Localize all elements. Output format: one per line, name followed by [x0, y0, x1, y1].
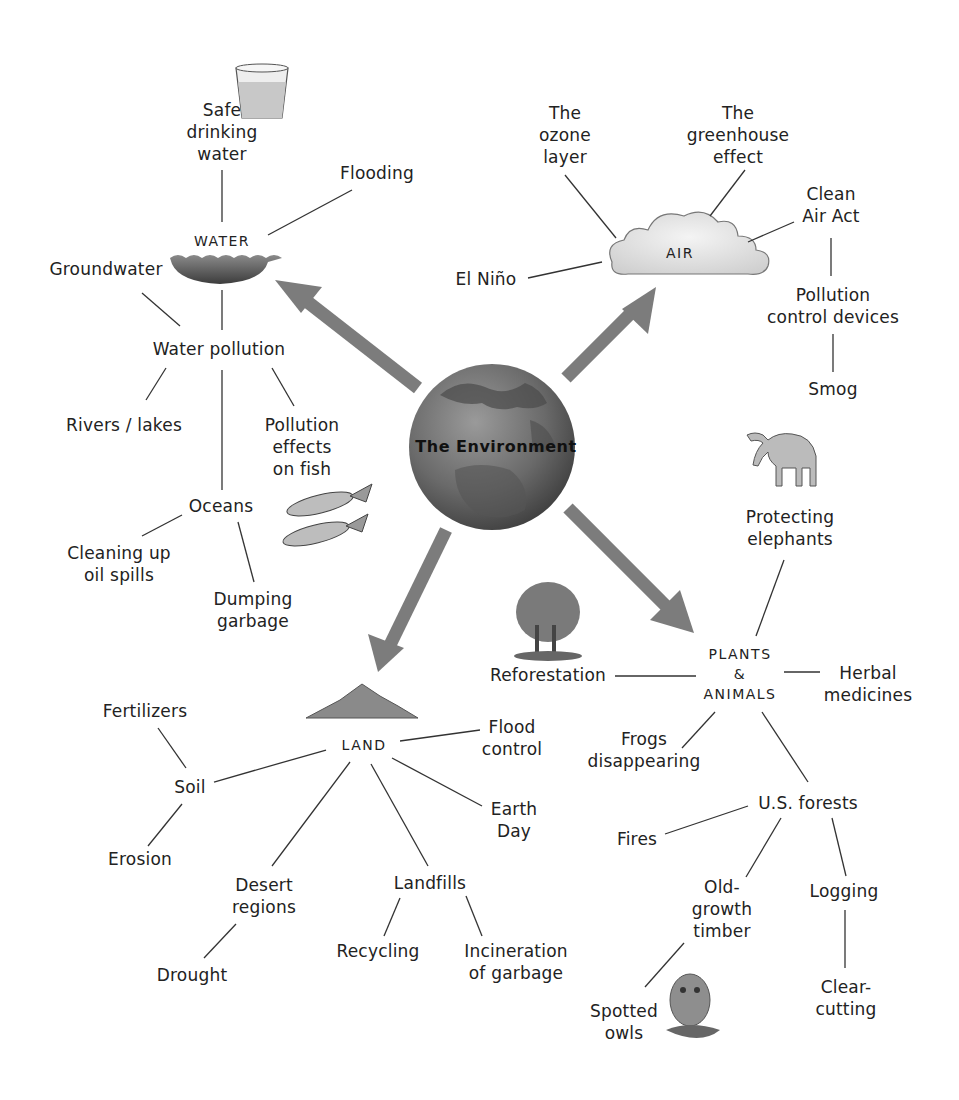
- node-fires: Fires: [617, 828, 657, 850]
- owl-icon: [666, 974, 720, 1038]
- node-rivers-lakes: Rivers / lakes: [66, 414, 182, 436]
- node-recycling: Recycling: [336, 940, 419, 962]
- node-herbal-medicines: Herbal medicines: [824, 662, 913, 706]
- node-oceans: Oceans: [189, 495, 253, 517]
- node-clear-cutting: Clear- cutting: [815, 976, 876, 1020]
- category-water: WATER: [194, 230, 250, 252]
- node-erosion: Erosion: [108, 848, 172, 870]
- category-land: LAND: [342, 734, 387, 756]
- node-logging: Logging: [810, 880, 879, 902]
- node-desert-regions: Desert regions: [232, 874, 296, 918]
- category-plants-animals: PLANTS & ANIMALS: [703, 644, 776, 704]
- node-landfills: Landfills: [394, 872, 466, 894]
- center-title: The Environment: [415, 436, 576, 458]
- node-spotted-owls: Spotted owls: [590, 1000, 658, 1044]
- node-pollution-effects-on-fish: Pollution effects on fish: [265, 414, 340, 480]
- node-cleaning-up-oil-spills: Cleaning up oil spills: [67, 542, 171, 586]
- node-greenhouse-effect: The greenhouse effect: [687, 102, 789, 168]
- node-pollution-control-devices: Pollution control devices: [767, 284, 899, 328]
- node-drought: Drought: [157, 964, 228, 986]
- node-frogs-disappearing: Frogs disappearing: [588, 728, 701, 772]
- node-flood-control: Flood control: [482, 716, 542, 760]
- arrow-to-plants-animals: [568, 508, 694, 633]
- node-flooding: Flooding: [340, 162, 414, 184]
- connectors: [142, 170, 846, 987]
- arrow-to-water: [275, 280, 418, 388]
- node-water-pollution: Water pollution: [153, 338, 286, 360]
- node-us-forests: U.S. forests: [758, 792, 858, 814]
- node-earth-day: Earth Day: [491, 798, 538, 842]
- node-soil: Soil: [174, 776, 205, 798]
- arrow-to-air: [566, 287, 656, 378]
- node-ozone-layer: The ozone layer: [539, 102, 591, 168]
- mountain-icon: [306, 684, 418, 718]
- environment-concept-map: The Environment WATER AIR LAND PLANTS & …: [0, 0, 959, 1100]
- node-incineration-of-garbage: Incineration of garbage: [464, 940, 567, 984]
- node-smog: Smog: [808, 378, 857, 400]
- arrow-to-land: [368, 530, 446, 672]
- node-old-growth-timber: Old- growth timber: [692, 876, 752, 942]
- node-dumping-garbage: Dumping garbage: [214, 588, 293, 632]
- node-fertilizers: Fertilizers: [103, 700, 188, 722]
- water-waves-icon: [170, 255, 282, 284]
- tree-icon: [514, 582, 582, 661]
- node-el-nino: El Niño: [456, 268, 517, 290]
- node-clean-air-act: Clean Air Act: [802, 183, 860, 227]
- node-groundwater: Groundwater: [49, 258, 162, 280]
- node-safe-drinking-water: Safe drinking water: [186, 99, 257, 165]
- fish-icon: [281, 484, 372, 551]
- node-protecting-elephants: Protecting elephants: [746, 506, 834, 550]
- node-reforestation: Reforestation: [490, 664, 606, 686]
- category-air: AIR: [666, 242, 694, 264]
- elephant-icon: [747, 433, 816, 486]
